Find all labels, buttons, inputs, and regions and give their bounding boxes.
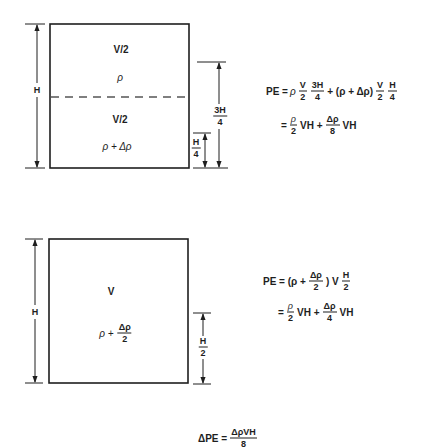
fraction-numerator: H [199,337,208,347]
bottom-equation-line1: PE = (ρ + Δρ 2 ) V H 2 [263,271,351,292]
eq-text: ) V [326,276,339,286]
fraction-numerator: V [376,81,384,91]
eq-text: ρ [290,86,296,96]
fraction-denominator: 2 [199,347,208,358]
upper-centroid-label: 3H 4 [212,106,228,127]
fraction-denominator: 4 [311,91,325,102]
fraction-denominator: 2 [299,91,307,102]
upper-layer-density: ρ [117,73,123,83]
density-fraction: Δρ 2 [118,323,132,344]
fraction-denominator: 4 [192,148,201,159]
fraction-numerator: Δρ [309,271,323,281]
height-label-bottom: H [32,307,39,318]
fraction-denominator: 2 [309,281,323,292]
height-label-top: H [34,85,41,96]
eq-fraction: V 2 [299,81,307,102]
eq-fraction: 3H 4 [311,81,325,102]
eq-fraction: Δρ 8 [326,115,340,136]
lower-centroid-label: H 4 [191,138,202,159]
fraction-denominator: 4 [323,312,337,323]
height-dimension-top [25,24,45,168]
eq-fraction: Δρ 2 [309,271,323,292]
eq-fraction: V 2 [376,81,384,102]
density-prefix: ρ + [99,328,113,338]
mixed-centroid-label: H 2 [198,337,209,358]
bottom-equation-line2: = ρ 2 VH + Δρ 4 VH [278,302,353,323]
fraction-denominator: 4 [213,116,227,127]
mixed-density: ρ + Δρ 2 [99,323,132,344]
result-fraction: ΔρVH 8 [230,428,257,448]
upper-layer-volume: V/2 [113,45,128,55]
fraction-numerator: V [299,81,307,91]
potential-energy-diagram: V/2 ρ V/2 ρ + Δρ H 3H 4 H 4 PE = ρ V 2 3… [0,0,421,448]
fraction-denominator: 8 [326,125,340,136]
lower-layer-density: ρ + Δρ [102,142,131,152]
delta-pe-result: ΔPE = ΔρVH 8 [198,428,258,448]
fraction-numerator: 3H [311,81,325,91]
result-lhs: ΔPE = [198,433,227,443]
eq-fraction: H 2 [342,271,351,292]
fraction-denominator: 2 [290,125,297,136]
eq-fraction: ρ 2 [290,115,297,136]
fraction-numerator: H [192,138,201,148]
fraction-denominator: 2 [342,281,351,292]
lower-layer-volume: V/2 [112,115,127,125]
eq-text: PE = [266,86,288,96]
fraction-denominator: 2 [118,333,132,344]
fraction-numerator: H [388,81,397,91]
fraction-numerator: ρ [287,302,294,312]
eq-text: VH + [300,120,323,130]
eq-text: = [278,307,284,317]
mixed-tank-box [49,239,188,383]
fraction-numerator: 3H [213,106,227,116]
eq-fraction: ρ 2 [287,302,294,323]
eq-text: = [281,120,287,130]
eq-fraction: H 4 [388,81,397,102]
fraction-denominator: 2 [287,312,294,323]
fraction-denominator: 4 [388,91,397,102]
top-equation-line2: = ρ 2 VH + Δρ 8 VH [281,115,356,136]
diagram-lines [0,0,421,448]
top-equation-line1: PE = ρ V 2 3H 4 + (ρ + Δρ) V 2 H 4 [266,81,398,102]
fraction-numerator: ρ [290,115,297,125]
eq-fraction: Δρ 4 [323,302,337,323]
fraction-numerator: Δρ [323,302,337,312]
mixed-volume: V [108,287,115,297]
fraction-numerator: Δρ [326,115,340,125]
fraction-numerator: Δρ [118,323,132,333]
eq-text: VH [340,307,354,317]
fraction-denominator: 8 [230,438,257,448]
eq-text: PE = (ρ + [263,276,306,286]
eq-text: VH [343,120,357,130]
fraction-numerator: H [342,271,351,281]
eq-text: VH + [297,307,320,317]
fraction-numerator: ΔρVH [230,428,257,438]
eq-text: + (ρ + Δρ) [327,86,373,96]
fraction-denominator: 2 [376,91,384,102]
